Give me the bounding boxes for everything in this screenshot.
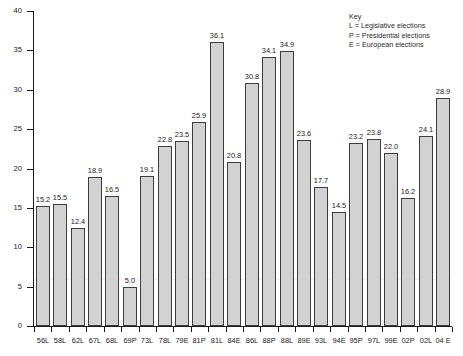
x-tick-mark <box>330 327 331 332</box>
x-tick-mark <box>260 327 261 332</box>
bar-chart: Key L = Legislative elections P = Presid… <box>0 0 463 356</box>
x-tick-mark <box>208 327 209 332</box>
bar-value-label: 18.9 <box>80 167 110 175</box>
bar <box>123 287 137 326</box>
y-tick-label: 35 <box>0 46 22 54</box>
y-tick-label: 15 <box>0 204 22 212</box>
bar-value-label: 36.1 <box>202 32 232 40</box>
bar <box>262 57 276 326</box>
y-tick-label: 40 <box>0 7 22 15</box>
bar <box>419 136 433 326</box>
x-tick-mark <box>173 327 174 332</box>
bar-value-label: 34.9 <box>272 41 302 49</box>
y-tick-label: 25 <box>0 125 22 133</box>
x-tick-mark <box>295 327 296 332</box>
x-tick-label: 04 E <box>428 336 458 345</box>
bar <box>158 146 172 326</box>
x-tick-mark <box>452 327 453 332</box>
legend-title: Key <box>349 12 430 21</box>
bar-value-label: 22.0 <box>376 143 406 151</box>
x-tick-mark <box>435 327 436 332</box>
x-tick-mark <box>243 327 244 332</box>
x-tick-mark <box>382 327 383 332</box>
bar <box>401 198 415 326</box>
bar <box>436 98 450 326</box>
bar <box>140 176 154 326</box>
x-tick-mark <box>400 327 401 332</box>
x-tick-mark <box>104 327 105 332</box>
x-tick-mark <box>139 327 140 332</box>
chart-legend: Key L = Legislative elections P = Presid… <box>349 12 430 50</box>
y-tick-mark <box>27 90 34 91</box>
legend-entry-presidential: P = Presidential elections <box>349 31 430 40</box>
x-tick-mark <box>51 327 52 332</box>
y-tick-mark <box>27 169 34 170</box>
y-tick-mark <box>27 129 34 130</box>
x-tick-mark <box>34 327 35 332</box>
bar-value-label: 15.5 <box>45 194 75 202</box>
y-tick-mark <box>27 247 34 248</box>
x-tick-mark <box>191 327 192 332</box>
y-tick-mark <box>27 208 34 209</box>
x-tick-mark <box>348 327 349 332</box>
x-tick-mark <box>313 327 314 332</box>
y-tick-mark <box>27 287 34 288</box>
x-tick-mark <box>278 327 279 332</box>
x-tick-mark <box>156 327 157 332</box>
bar-value-label: 16.5 <box>97 186 127 194</box>
x-tick-mark <box>121 327 122 332</box>
bar <box>245 83 259 326</box>
bar <box>36 206 50 326</box>
bar <box>332 212 346 326</box>
y-tick-mark <box>27 326 34 327</box>
bar <box>384 153 398 326</box>
bar <box>367 139 381 326</box>
x-tick-mark <box>69 327 70 332</box>
y-tick-label: 10 <box>0 243 22 251</box>
bar <box>227 162 241 326</box>
bar-value-label: 23.8 <box>359 129 389 137</box>
x-tick-mark <box>417 327 418 332</box>
bar <box>192 122 206 326</box>
x-tick-mark <box>365 327 366 332</box>
x-tick-mark <box>86 327 87 332</box>
bar <box>297 140 311 326</box>
bar <box>280 51 294 326</box>
bar-value-label: 17.7 <box>306 177 336 185</box>
bar-value-label: 28.9 <box>428 88 458 96</box>
legend-entry-legislative: L = Legislative elections <box>349 21 430 30</box>
bar <box>349 143 363 326</box>
bar-value-label: 23.6 <box>289 130 319 138</box>
bar <box>105 196 119 326</box>
y-tick-label: 0 <box>0 322 22 330</box>
y-tick-label: 30 <box>0 86 22 94</box>
bar <box>71 228 85 326</box>
bar <box>88 177 102 326</box>
y-tick-label: 5 <box>0 283 22 291</box>
bar <box>210 42 224 326</box>
y-tick-mark <box>27 50 34 51</box>
y-tick-label: 20 <box>0 165 22 173</box>
bar <box>175 141 189 326</box>
y-tick-mark <box>27 11 34 12</box>
legend-entry-european: E = European elections <box>349 40 430 49</box>
x-tick-mark <box>226 327 227 332</box>
